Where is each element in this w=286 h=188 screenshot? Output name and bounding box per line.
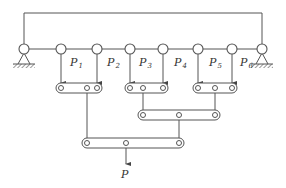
label-p2: P2: [106, 56, 120, 70]
label-p6: P6: [239, 56, 253, 70]
left-support: [13, 53, 35, 68]
label-p1: P1: [69, 56, 83, 70]
label-p3: P3: [138, 56, 152, 70]
lever-system-diagram: P1 P2 P3 P4 P5 P6 P: [0, 0, 286, 188]
top-frame: [24, 13, 262, 49]
label-p4: P4: [173, 56, 187, 70]
label-p5: P5: [208, 56, 222, 70]
right-support: [251, 53, 273, 68]
lever-e: [82, 138, 184, 148]
label-output-p: P: [120, 168, 129, 181]
